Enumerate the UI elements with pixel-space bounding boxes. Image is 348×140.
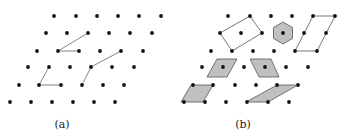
lattice-point — [248, 14, 252, 18]
lattice-point — [182, 100, 186, 104]
lattice-point — [80, 83, 84, 87]
lattice-point — [141, 49, 145, 53]
lattice-point — [77, 49, 81, 53]
lattice-point — [221, 65, 225, 69]
lattice-point — [333, 14, 337, 18]
lattice-point — [35, 49, 39, 53]
lattice-point — [92, 100, 96, 104]
lattice-point — [107, 31, 111, 35]
lattice-point — [233, 83, 237, 87]
lattice-point — [56, 49, 60, 53]
lattice-point — [290, 14, 294, 18]
lattice-path-2 — [82, 51, 121, 85]
lattice-point — [260, 31, 264, 35]
lattice-point — [137, 14, 141, 18]
lattice-point — [211, 83, 215, 87]
lattice-point — [150, 31, 154, 35]
panel-b: (b) — [181, 14, 337, 131]
lattice-point — [254, 83, 258, 87]
lattice-point — [128, 31, 132, 35]
panel-b-label: (b) — [235, 118, 251, 131]
lattice-point — [275, 83, 279, 87]
lattice-point — [47, 65, 51, 69]
lattice-point — [132, 65, 136, 69]
lattice-point — [29, 100, 33, 104]
lattice-point — [68, 65, 72, 69]
lattice-point — [266, 100, 270, 104]
panel-a: (a) — [8, 14, 163, 131]
parallelogram-bottom-long — [246, 85, 298, 102]
lattice-point — [284, 65, 288, 69]
lattice-point — [52, 14, 56, 18]
lattice-point — [59, 83, 63, 87]
lattice-point — [37, 83, 41, 87]
lattice-point — [315, 49, 319, 53]
parallelogram-outline — [295, 16, 335, 51]
lattice-point — [95, 14, 99, 18]
lattice-point — [242, 65, 246, 69]
lattice-point — [218, 31, 222, 35]
lattice-point — [209, 49, 213, 53]
lattice-point — [26, 65, 30, 69]
lattice-point — [119, 49, 123, 53]
lattice-point — [324, 31, 328, 35]
lattice-point — [116, 14, 120, 18]
lattice-point — [191, 83, 195, 87]
lattice-point — [50, 100, 54, 104]
lattice-point — [306, 65, 310, 69]
lattice-point — [263, 65, 267, 69]
lattice-point — [287, 100, 291, 104]
lattice-point — [74, 14, 78, 18]
lattice-point — [17, 83, 21, 87]
parallelogram-bottom-left — [181, 85, 213, 102]
lattice-point — [110, 65, 114, 69]
lattice-point — [302, 31, 306, 35]
lattice-point — [65, 31, 69, 35]
lattice-point — [101, 83, 105, 87]
lattice-point — [281, 31, 285, 35]
panel-a-label: (a) — [54, 118, 69, 131]
lattice-point — [159, 14, 163, 18]
lattice-point — [269, 14, 273, 18]
lattice-point — [293, 49, 297, 53]
lattice-point — [86, 31, 90, 35]
lattice-point — [239, 31, 243, 35]
lattice-point — [311, 14, 315, 18]
lattice-point — [251, 49, 255, 53]
lattice-diagram: (a) (b) — [0, 0, 348, 140]
lattice-point — [113, 100, 117, 104]
lattice-point — [200, 65, 204, 69]
lattice-path-3 — [39, 67, 61, 85]
lattice-point — [226, 14, 230, 18]
lattice-point — [71, 100, 75, 104]
lattice-point — [44, 31, 48, 35]
lattice-point — [272, 49, 276, 53]
lattice-path-1 — [58, 33, 88, 51]
lattice-point — [245, 100, 249, 104]
lattice-point — [122, 83, 126, 87]
lattice-point — [296, 83, 300, 87]
panel-a-lattice-points — [8, 14, 163, 104]
lattice-point — [89, 65, 93, 69]
lattice-point — [8, 100, 12, 104]
panel-b-shapes — [181, 16, 335, 102]
lattice-point — [203, 100, 207, 104]
lattice-point — [230, 49, 234, 53]
panel-a-lattice-paths — [39, 33, 121, 85]
lattice-point — [224, 100, 228, 104]
lattice-point — [98, 49, 102, 53]
